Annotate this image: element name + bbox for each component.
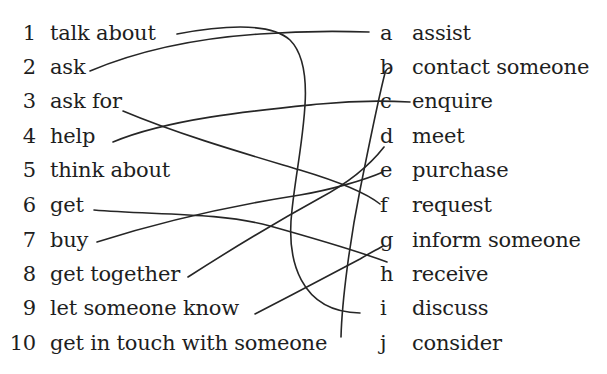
item-text: think about <box>50 158 170 182</box>
match-line-8-d <box>188 147 384 277</box>
item-letter: e <box>380 158 400 182</box>
item-text: let someone know <box>50 296 239 320</box>
item-letter: i <box>380 296 400 320</box>
match-line-1-i <box>177 27 360 313</box>
match-line-7-e <box>97 172 383 242</box>
item-letter: h <box>380 262 400 286</box>
item-text: ask <box>50 55 85 79</box>
item-letter: f <box>380 193 400 217</box>
item-number: 7 <box>6 228 36 252</box>
item-text: help <box>50 124 95 148</box>
item-text: get together <box>50 262 180 286</box>
item-text: get in touch with someone <box>50 331 327 355</box>
item-text: request <box>412 193 492 217</box>
item-number: 10 <box>6 331 36 355</box>
item-text: get <box>50 193 84 217</box>
item-letter: d <box>380 124 400 148</box>
item-number: 9 <box>6 296 36 320</box>
item-number: 6 <box>6 193 36 217</box>
match-line-9-g <box>255 246 383 314</box>
item-number: 5 <box>6 158 36 182</box>
item-text: receive <box>412 262 488 286</box>
item-text: consider <box>412 331 502 355</box>
item-letter: c <box>380 89 400 113</box>
item-letter: a <box>380 21 400 45</box>
item-number: 2 <box>6 55 36 79</box>
match-line-6-h <box>94 210 387 262</box>
item-text: enquire <box>412 89 493 113</box>
item-text: inform someone <box>412 228 581 252</box>
item-text: buy <box>50 228 88 252</box>
item-text: talk about <box>50 21 156 45</box>
item-text: meet <box>412 124 464 148</box>
item-text: purchase <box>412 158 508 182</box>
item-letter: j <box>380 331 400 355</box>
item-text: assist <box>412 21 471 45</box>
item-text: ask for <box>50 89 122 113</box>
item-number: 8 <box>6 262 36 286</box>
match-line-4-c <box>113 101 410 142</box>
item-number: 4 <box>6 124 36 148</box>
item-text: contact someone <box>412 55 589 79</box>
item-text: discuss <box>412 296 488 320</box>
item-letter: g <box>380 228 400 252</box>
item-letter: b <box>380 55 400 79</box>
item-number: 1 <box>6 21 36 45</box>
item-number: 3 <box>6 89 36 113</box>
